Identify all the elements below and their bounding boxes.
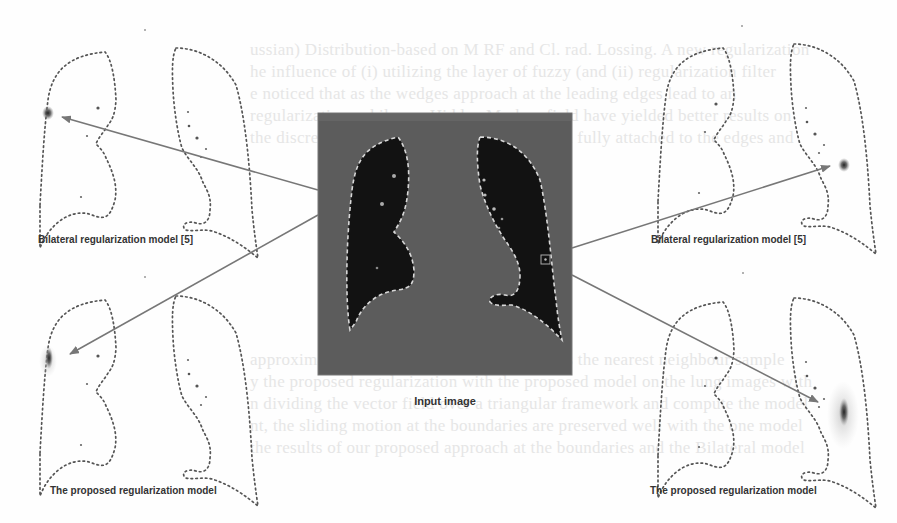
error-hotspot (838, 158, 850, 172)
lung-contours (658, 44, 876, 254)
error-hotspot (839, 398, 849, 426)
figure-canvas: Input image Bilateral regularization mod… (0, 0, 897, 523)
caption-bottom-left: The proposed regularization model (50, 485, 217, 496)
error-hotspot (42, 106, 54, 120)
error-hotspot (45, 347, 53, 369)
caption-bottom-right: The proposed regularization model (650, 485, 817, 496)
arrow-to-top-left (62, 117, 318, 190)
lung-contours (40, 48, 258, 258)
caption-top-right: Bilateral regularization model [5] (651, 234, 806, 245)
lung-contours (40, 296, 258, 506)
input-image-caption: Input image (414, 395, 476, 407)
caption-top-left: Bilateral regularization model [5] (38, 234, 193, 245)
panel-top-left (40, 48, 258, 258)
panel-bottom-right (658, 298, 876, 508)
input-ct-image (318, 113, 572, 375)
panel-bottom-left (39, 296, 258, 506)
panel-top-right (658, 44, 876, 254)
arrow-to-bottom-right (572, 275, 818, 402)
